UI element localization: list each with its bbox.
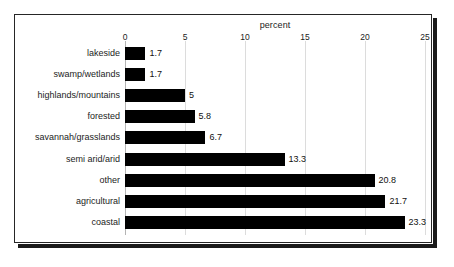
plot-area: lakeside1.7swamp/wetlands1.7highlands/mo… (125, 41, 425, 235)
bar-row: forested5.8 (125, 107, 425, 128)
bar (125, 68, 145, 81)
bar-value-label: 21.7 (385, 195, 407, 208)
bar-value-label: 6.7 (205, 131, 222, 144)
bar-value-label: 20.8 (375, 174, 397, 187)
frame-shadow-right (433, 18, 437, 247)
bar-row: agricultural21.7 (125, 191, 425, 212)
bar-row: coastal23.3 (125, 213, 425, 234)
bar (125, 110, 195, 123)
bar-row: other20.8 (125, 170, 425, 191)
bar (125, 131, 205, 144)
category-label: savannah/grasslands (35, 131, 125, 144)
category-label: highlands/mountains (37, 89, 125, 102)
chart-figure: percent 0510152025 lakeside1.7swamp/wetl… (0, 0, 454, 267)
bar-row: highlands/mountains5 (125, 85, 425, 106)
category-label: agricultural (76, 195, 125, 208)
chart-frame: percent 0510152025 lakeside1.7swamp/wetl… (14, 14, 432, 243)
bar-row: swamp/wetlands1.7 (125, 64, 425, 85)
frame-shadow-bottom (18, 244, 437, 248)
category-label: semi arid/arid (66, 153, 125, 166)
bar-row: semi arid/arid13.3 (125, 149, 425, 170)
axis-title: percent (125, 20, 425, 30)
bar (125, 216, 405, 229)
bar-row: lakeside1.7 (125, 43, 425, 64)
category-label: coastal (91, 216, 125, 229)
category-label: swamp/wetlands (53, 68, 125, 81)
bar-value-label: 13.3 (285, 153, 307, 166)
bar-value-label: 1.7 (145, 68, 162, 81)
bar-rows: lakeside1.7swamp/wetlands1.7highlands/mo… (125, 41, 425, 235)
bar (125, 153, 285, 166)
category-label: lakeside (87, 47, 125, 60)
bar-value-label: 23.3 (405, 216, 427, 229)
category-label: forested (87, 110, 125, 123)
bar-value-label: 5 (185, 89, 194, 102)
gridline (425, 41, 426, 235)
category-label: other (99, 174, 125, 187)
bar (125, 174, 375, 187)
bar (125, 195, 385, 208)
bar (125, 47, 145, 60)
bar-row: savannah/grasslands6.7 (125, 128, 425, 149)
bar (125, 89, 185, 102)
bar-value-label: 1.7 (145, 47, 162, 60)
bar-value-label: 5.8 (195, 110, 212, 123)
